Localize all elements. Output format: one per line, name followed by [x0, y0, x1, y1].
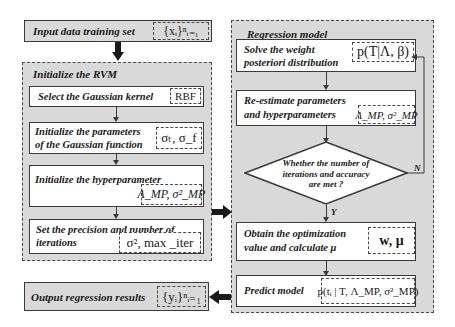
decision-line-3: are met ?: [244, 179, 408, 190]
init-gaussian-params-box: Initialize the parameters of the Gaussia…: [29, 122, 204, 154]
init-hyperparameter-math: Λ_MP, σ²_MP: [141, 184, 202, 205]
arrow-regression-to-output: [209, 290, 231, 304]
decision-line-1: Whether the number of: [244, 158, 408, 169]
output-results-math: {yᵢ}ⁿᵢ₌₁: [157, 286, 206, 307]
solve-weight-math: p(T|Λ, β): [352, 42, 414, 62]
solve-weight-label-2: posteriori distribution: [244, 57, 338, 69]
decision-line-2: iterations and accuracy: [244, 169, 408, 180]
arrow-input-to-init: [112, 42, 124, 62]
init-gaussian-params-label-1: Initialize the parameters: [35, 126, 141, 138]
set-precision-box: Set the precision and number of iteratio…: [29, 219, 204, 254]
predict-model-label: Predict model: [244, 285, 304, 297]
input-data-box: Input data training set {xᵢ}ⁿᵢ₌₁: [24, 20, 212, 42]
init-rvm-title: Initialize the RVM: [33, 68, 117, 80]
re-estimate-label-2: and hyperparameters: [244, 109, 336, 121]
solve-weight-label-1: Solve the weight: [244, 44, 315, 56]
init-gaussian-params-label-2: of the Gaussian function: [35, 139, 143, 151]
arrow-init-to-regression: [212, 205, 232, 219]
obtain-optimization-box: Obtain the optimization value and calcul…: [236, 222, 416, 261]
re-estimate-label-1: Re-estimate parameters: [244, 95, 346, 107]
init-hyperparameter-box: Initialize the hyperparameter Λ_MP, σ²_M…: [29, 165, 204, 207]
decision-diamond: Whether the number of iterations and acc…: [244, 141, 408, 205]
output-results-box: Output regression results {yᵢ}ⁿᵢ₌₁: [24, 282, 209, 311]
obtain-optimization-math: w, μ: [368, 227, 415, 254]
yes-label: Y: [331, 207, 337, 217]
arrow-down-icon: [112, 42, 124, 62]
predict-model-math: p(tᵢ | T, Λ_MP, σ²_MP): [321, 278, 415, 304]
obtain-optimization-label-1: Obtain the optimization: [244, 228, 346, 240]
connector: [326, 72, 327, 86]
loop-arrow-icon: [407, 54, 427, 174]
select-kernel-math: RBF: [170, 88, 201, 104]
obtain-optimization-label-2: value and calculate μ: [244, 242, 336, 254]
set-precision-math: σ², max _iter: [119, 232, 201, 253]
select-kernel-label: Select the Gaussian kernel: [38, 91, 153, 103]
input-data-math: {xᵢ}ⁿᵢ₌₁: [153, 22, 209, 40]
arrow-left-icon: [209, 290, 231, 304]
input-data-label: Input data training set: [33, 25, 135, 37]
set-precision-label-2: iterations: [36, 237, 77, 249]
re-estimate-box: Re-estimate parameters and hyperparamete…: [236, 90, 416, 126]
select-kernel-box: Select the Gaussian kernel RBF: [29, 86, 204, 107]
solve-weight-box: Solve the weight posteriori distribution…: [236, 39, 416, 72]
predict-model-box: Predict model p(tᵢ | T, Λ_MP, σ²_MP): [236, 275, 416, 307]
decision-text: Whether the number of iterations and acc…: [244, 158, 408, 190]
no-loop-connector: [407, 54, 427, 174]
arrow-right-icon: [212, 205, 232, 219]
output-results-label: Output regression results: [31, 291, 145, 303]
no-label: N: [414, 163, 421, 173]
init-gaussian-params-math: σₜ, σ_f: [156, 127, 202, 149]
